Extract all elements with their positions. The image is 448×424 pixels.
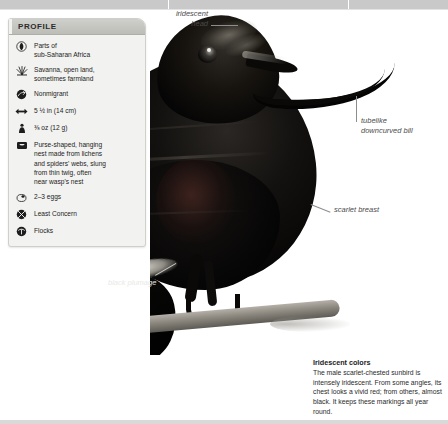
page-top-bleed-bar: [0, 0, 448, 9]
profile-title: PROFILE: [18, 22, 57, 31]
perch-shadow: [270, 316, 350, 332]
profile-row-range-text: Parts of sub-Saharan Africa: [34, 40, 90, 59]
profile-card-header: PROFILE: [9, 19, 145, 35]
profile-row-social-text: Flocks: [34, 226, 53, 236]
caption-body: The male scarlet-chested sunbird is inte…: [313, 368, 445, 416]
egg-icon: [15, 192, 28, 204]
caption-title: Iridescent colors: [313, 358, 445, 367]
profile-card-body: Parts of sub-Saharan Africa Savanna, ope…: [9, 35, 145, 246]
profile-row-length-text: 5 ½ in (14 cm): [34, 105, 76, 115]
annotation-tubelike-bill: tubelike downcurved bill: [361, 116, 447, 136]
conservation-icon: [15, 209, 28, 221]
profile-row-eggs: 2–3 eggs: [15, 192, 139, 204]
page-fold-mark-right: [348, 0, 349, 9]
profile-tab-notch: [9, 19, 12, 34]
bird-breast-sheen: [156, 158, 236, 244]
annotation-scarlet-breast: scarlet breast: [334, 205, 414, 215]
profile-row-nest-text: Purse-shaped, hanging nest made from lic…: [34, 139, 106, 186]
profile-row-conservation: Least Concern: [15, 209, 139, 221]
profile-row-weight-text: ⅜ oz (12 g): [34, 122, 67, 132]
annotation-black-plumage: black plumage: [108, 278, 172, 288]
nest-icon: [15, 139, 28, 151]
migration-icon: [15, 88, 28, 100]
profile-row-range: Parts of sub-Saharan Africa: [15, 40, 139, 59]
profile-row-eggs-text: 2–3 eggs: [34, 192, 61, 202]
profile-row-habitat: Savanna, open land, sometimes farmland: [15, 64, 139, 83]
profile-row-nest: Purse-shaped, hanging nest made from lic…: [15, 139, 139, 186]
profile-row-weight: ⅜ oz (12 g): [15, 122, 139, 134]
annotation-iridescent-head: iridescent head: [152, 9, 208, 29]
length-arrows-icon: [15, 105, 28, 117]
bird-eye-glint: [207, 48, 211, 52]
profile-row-migration-text: Nonmigrant: [34, 88, 68, 98]
profile-row-habitat-text: Savanna, open land, sometimes farmland: [34, 64, 95, 83]
leader-line-iridescent-head: [211, 25, 238, 26]
weight-icon: [15, 122, 28, 134]
grass-habitat-icon: [15, 64, 28, 76]
page-bottom-bleed-bar: [0, 420, 448, 424]
profile-row-length: 5 ½ in (14 cm): [15, 105, 139, 117]
field-guide-page: iridescent head tubelike downcurved bill…: [0, 0, 448, 424]
profile-row-migration: Nonmigrant: [15, 88, 139, 100]
bird-photograph: [150, 10, 448, 355]
caption-block: Iridescent colors The male scarlet-chest…: [313, 358, 445, 416]
profile-row-social: Flocks: [15, 226, 139, 238]
page-fold-mark-left: [168, 0, 169, 9]
profile-card: PROFILE Parts of sub-Saharan Africa: [8, 18, 146, 247]
leader-line-tubelike-bill: [356, 96, 357, 122]
globe-range-icon: [15, 40, 28, 52]
social-icon: [15, 226, 28, 238]
profile-row-conservation-text: Least Concern: [34, 209, 77, 219]
